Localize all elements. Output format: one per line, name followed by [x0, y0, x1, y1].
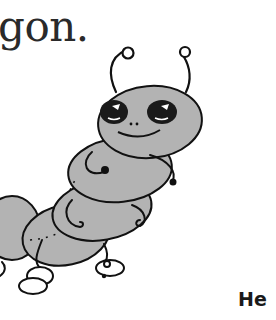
- caterpillar-illustration: [0, 0, 276, 320]
- eye-left-icon: [100, 100, 128, 124]
- eye-right-icon: [147, 100, 177, 124]
